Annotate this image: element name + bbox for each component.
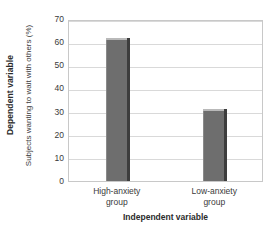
x-category-label: High-anxietygroup [72,186,162,208]
y-axis-label-text: Subjects wanting to wait with others (%) [25,24,34,165]
y-tick-label: 30 [38,108,64,117]
bar [106,38,130,181]
y-tick-label: 40 [38,84,64,93]
bar [203,109,227,181]
y-tick-label: 70 [38,15,64,24]
gridline [69,90,262,91]
gridline [69,67,262,68]
bar-side-face [127,38,130,181]
gridline [69,21,262,22]
bar-left-highlight [106,38,107,181]
bar-left-highlight [203,109,204,181]
plot-area [68,20,263,182]
gridline [69,136,262,137]
bar-chart-figure: Dependent variable Subjects wanting to w… [0,0,279,233]
x-category-label-line: High-anxiety [72,186,162,197]
y-axis-outer-title-text: Dependent variable [5,55,15,135]
y-tick-label: 50 [38,61,64,70]
x-category-label-line: group [72,197,162,208]
y-tick-label: 60 [38,38,64,47]
gridline [69,113,262,114]
bar-side-face [224,109,227,181]
x-category-label-line: group [169,197,259,208]
x-category-label: Low-anxietygroup [169,186,259,208]
y-tick-label: 10 [38,154,64,163]
gridline [69,159,262,160]
y-axis-outer-title: Dependent variable [0,0,20,190]
gridline [69,44,262,45]
y-tick-label: 20 [38,131,64,140]
x-category-label-line: Low-anxiety [169,186,259,197]
y-axis-label: Subjects wanting to wait with others (%) [18,0,40,190]
y-tick-label: 0 [38,177,64,186]
x-axis-title: Independent variable [68,212,263,222]
